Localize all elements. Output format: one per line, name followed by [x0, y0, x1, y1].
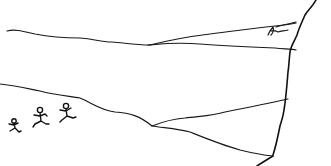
bottom-edge-line: [257, 156, 273, 166]
artist-signature: [268, 27, 288, 35]
sketch-svg: [0, 0, 331, 166]
illustration-canvas: Line drawing of a hillside and cliff wit…: [0, 0, 331, 166]
lower-slope-line: [152, 126, 273, 156]
running-figure-1: [9, 119, 21, 132]
running-figure-3: [60, 103, 76, 122]
running-figure-2: [33, 107, 49, 127]
second-ridge-line: [148, 43, 296, 50]
upper-ridge-line: [7, 23, 296, 45]
middle-slope-line: [0, 84, 288, 126]
ridge-tick: [276, 22, 296, 27]
